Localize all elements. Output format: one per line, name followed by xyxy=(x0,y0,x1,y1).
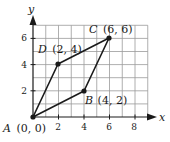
x-axis-arrow-icon xyxy=(147,114,157,121)
point-b xyxy=(81,88,86,93)
point-a-coords: (0, 0) xyxy=(16,122,46,135)
point-b-letter: B xyxy=(84,94,93,107)
graph-svg: x y 2 4 6 8 2 4 6 A (0, 0) B (4, 2) C (6… xyxy=(0,0,170,142)
y-tick-label: 4 xyxy=(21,60,27,70)
point-d-letter: D xyxy=(37,43,47,56)
point-a xyxy=(30,114,35,119)
x-tick-label: 6 xyxy=(106,122,112,132)
label-point-a: A (0, 0) xyxy=(2,122,46,135)
label-point-d: D (2, 4) xyxy=(37,43,82,56)
point-c xyxy=(106,35,111,40)
point-d-coords: (2, 4) xyxy=(52,43,82,56)
y-axis xyxy=(30,15,37,117)
x-axis-label: x xyxy=(159,111,166,124)
y-axis-label: y xyxy=(27,3,35,16)
point-d xyxy=(55,61,60,66)
y-tick-label: 2 xyxy=(21,86,27,96)
label-point-b: B (4, 2) xyxy=(84,94,127,107)
label-point-c: C (6, 6) xyxy=(89,23,133,36)
y-axis-arrow-icon xyxy=(30,15,37,25)
point-b-coords: (4, 2) xyxy=(98,94,128,107)
x-tick-label: 8 xyxy=(131,122,137,132)
x-axis xyxy=(33,114,157,121)
point-a-letter: A xyxy=(2,122,11,135)
point-c-coords: (6, 6) xyxy=(103,23,133,36)
y-tick-label: 6 xyxy=(21,33,27,43)
x-tick-label: 2 xyxy=(55,122,61,132)
x-tick-label: 4 xyxy=(81,122,87,132)
point-c-letter: C xyxy=(89,23,98,36)
coordinate-figure: x y 2 4 6 8 2 4 6 A (0, 0) B (4, 2) C (6… xyxy=(0,0,170,142)
